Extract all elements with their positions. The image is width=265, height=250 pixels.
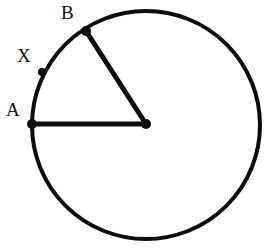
circle-diagram-canvas bbox=[0, 0, 265, 250]
point-marker-x bbox=[38, 68, 46, 76]
center-point-marker bbox=[141, 119, 151, 129]
point-marker-a bbox=[27, 119, 37, 129]
point-marker-b bbox=[81, 26, 91, 36]
point-label-a: A bbox=[6, 100, 20, 119]
point-label-x: X bbox=[17, 46, 31, 65]
geometry-figure: B X A bbox=[0, 0, 265, 250]
point-label-b: B bbox=[61, 3, 74, 22]
radius-segment-ob bbox=[86, 31, 146, 124]
